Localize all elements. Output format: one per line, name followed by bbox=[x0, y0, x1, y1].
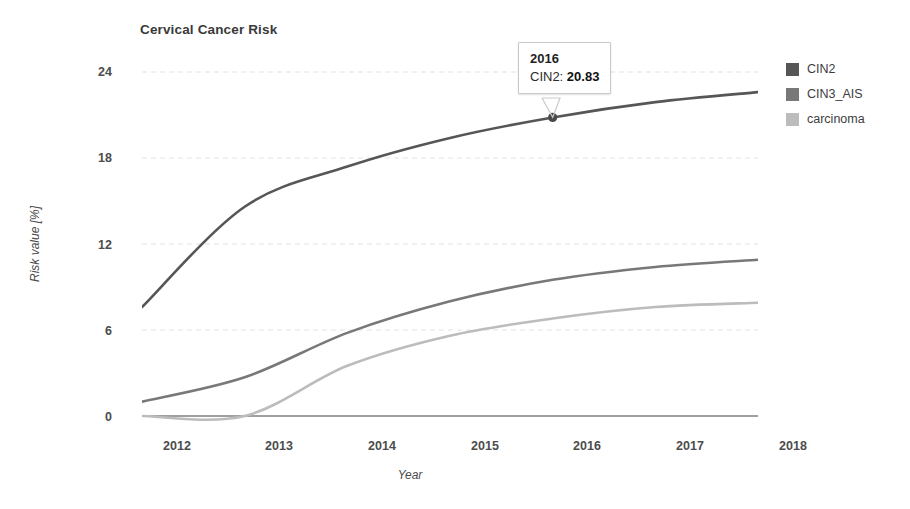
x-tick-label-2012: 2012 bbox=[142, 440, 212, 453]
chart-container: Cervical Cancer Risk Risk value [%] Year… bbox=[0, 0, 910, 509]
data-point-marker[interactable] bbox=[548, 113, 557, 122]
x-tick-label-2016: 2016 bbox=[552, 440, 622, 453]
y-tick-label-6: 6 bbox=[66, 325, 112, 338]
tooltip-series-label: CIN2: bbox=[530, 69, 563, 84]
tooltip-title: 2016 bbox=[530, 50, 599, 68]
legend-item-carcinoma[interactable]: carcinoma bbox=[786, 108, 906, 130]
x-tick-label-2014: 2014 bbox=[347, 440, 417, 453]
tooltip-value: 20.83 bbox=[567, 69, 600, 84]
x-tick-label-2013: 2013 bbox=[244, 440, 314, 453]
legend-label-carcinoma: carcinoma bbox=[807, 112, 865, 126]
series-line-carcinoma[interactable] bbox=[142, 303, 758, 420]
y-tick-label-0: 0 bbox=[66, 411, 112, 424]
series-lines bbox=[142, 92, 758, 420]
legend-item-cin2[interactable]: CIN2 bbox=[786, 58, 906, 80]
annotation-marker[interactable] bbox=[548, 113, 557, 122]
y-tick-label-18: 18 bbox=[66, 152, 112, 165]
legend-label-cin3-ais: CIN3_AIS bbox=[807, 87, 863, 101]
gridlines bbox=[142, 72, 758, 330]
legend-swatch-icon-cin2 bbox=[786, 63, 799, 76]
chart-title: Cervical Cancer Risk bbox=[140, 22, 277, 37]
legend: CIN2 CIN3_AIS carcinoma bbox=[786, 58, 906, 133]
x-tick-label-2015: 2015 bbox=[450, 440, 520, 453]
tooltip: 2016 CIN2: 20.83 bbox=[518, 42, 611, 94]
x-axis-title: Year bbox=[0, 468, 910, 482]
x-tick-label-2018: 2018 bbox=[758, 440, 828, 453]
tooltip-value-row: CIN2: 20.83 bbox=[530, 68, 599, 86]
y-tick-label-12: 12 bbox=[66, 239, 112, 252]
x-tick-label-2017: 2017 bbox=[655, 440, 725, 453]
legend-label-cin2: CIN2 bbox=[807, 62, 835, 76]
legend-swatch-icon-carcinoma bbox=[786, 113, 799, 126]
series-line-cin3-ais[interactable] bbox=[142, 260, 758, 402]
x-axis-title-text: Year bbox=[398, 468, 423, 482]
plot-area bbox=[142, 60, 758, 430]
series-line-cin2[interactable] bbox=[142, 92, 758, 307]
plot-svg bbox=[142, 60, 758, 430]
legend-swatch-icon-cin3-ais bbox=[786, 88, 799, 101]
y-axis-title: Risk value [%] bbox=[28, 164, 42, 324]
y-tick-label-24: 24 bbox=[66, 66, 112, 79]
legend-item-cin3-ais[interactable]: CIN3_AIS bbox=[786, 83, 906, 105]
